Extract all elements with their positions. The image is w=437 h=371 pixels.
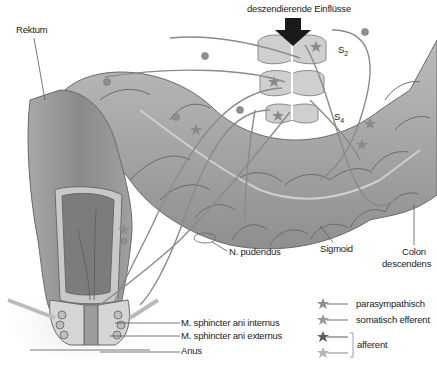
legend-parasympathetic-icon (317, 298, 348, 309)
s2-subscript: 2 (344, 50, 348, 57)
segment-s2-label: S2 (338, 44, 348, 57)
legend-somatic-efferent-icon (317, 314, 348, 325)
legend-label-parasympathetic: parasympathisch (356, 298, 425, 309)
n-pudendus-label: N. pudendus (229, 246, 281, 257)
sigmoid-label: Sigmoid (320, 243, 353, 254)
colon-label-line1: Colon (402, 246, 426, 257)
descending-influences-label: deszendierende Einflüsse (247, 3, 351, 14)
segment-s4-label: S4 (334, 111, 344, 124)
legend-label-afferent: afferent (357, 339, 387, 350)
sphincter-externus-label: M. sphincter ani externus (181, 330, 282, 341)
rektum-label: Rektum (16, 24, 48, 35)
legend-label-somatic-efferent: somatisch efferent (356, 314, 430, 325)
anus-label: Anus (181, 345, 202, 356)
s4-subscript: 4 (340, 117, 344, 124)
legend-afferent-dark-icon (317, 331, 348, 342)
colon-label-line2: descendens (382, 258, 431, 269)
afferent-bracket (350, 333, 353, 357)
legend-afferent-light-icon (317, 347, 348, 358)
sphincter-internus-label: M. sphincter ani internus (181, 317, 280, 328)
legend-icons (317, 298, 353, 358)
